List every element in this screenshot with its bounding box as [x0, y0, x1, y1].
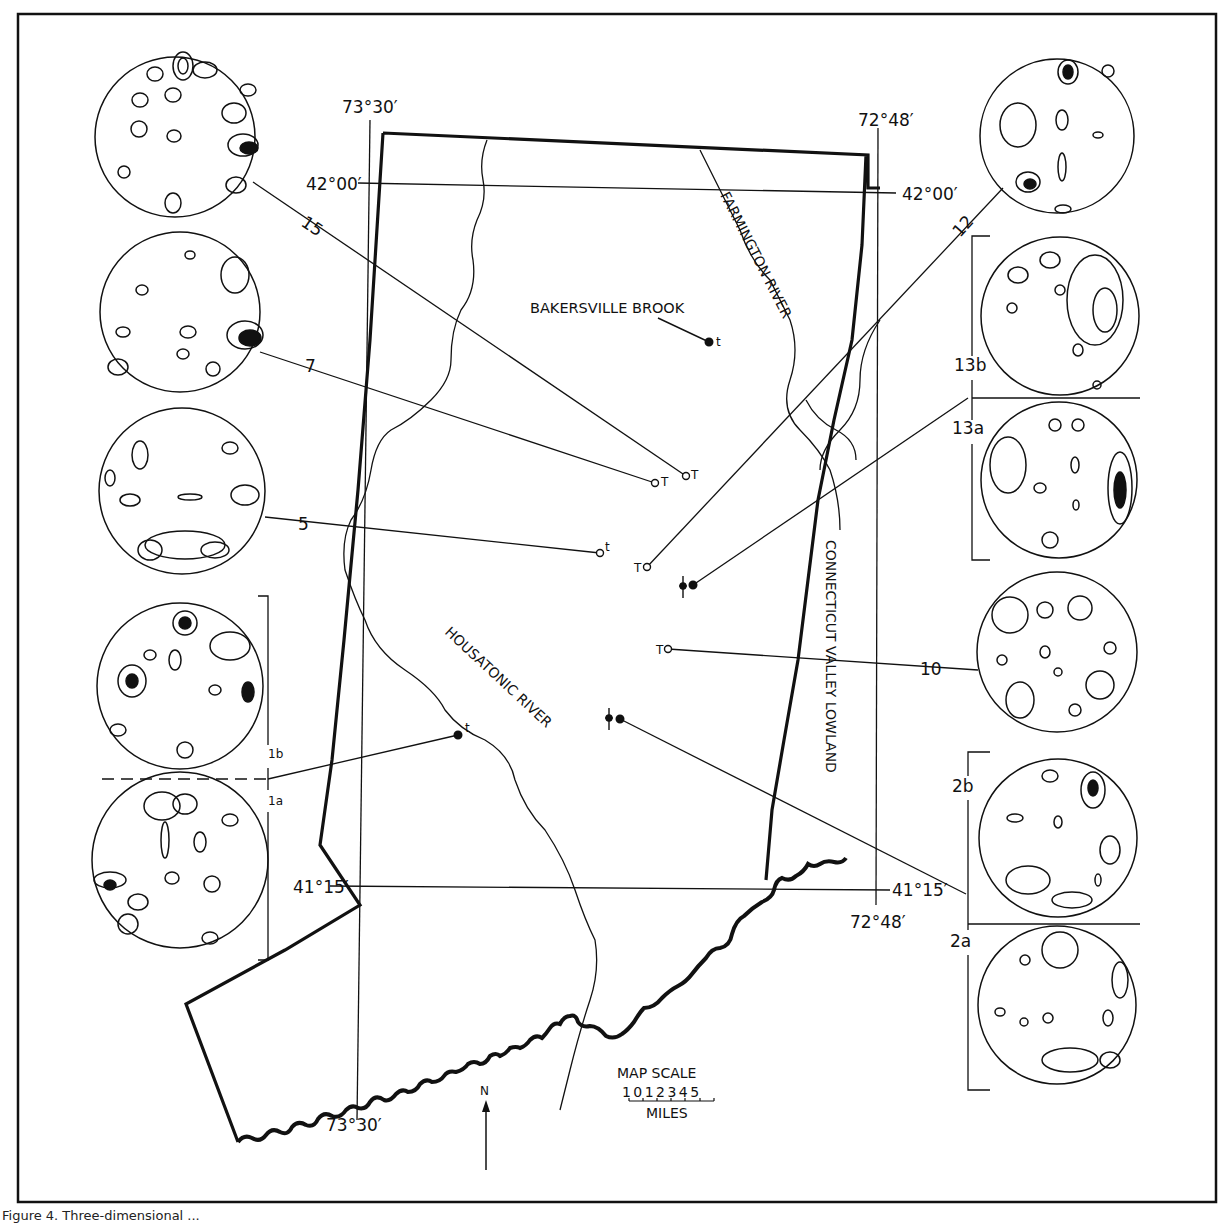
lon-west-top-label: 73°30′ [342, 97, 398, 117]
stereonet-2b [979, 759, 1137, 917]
stereonet-10 [977, 572, 1137, 732]
site-tag-5: t [605, 540, 610, 554]
lon-east-bottom-label: 72°48′ [850, 912, 906, 932]
coastline [238, 858, 846, 1142]
site-tag-10: T [655, 643, 664, 657]
site-tag-bakersville: t [716, 335, 721, 349]
bracket-1 [258, 596, 268, 960]
site-tag-12: T [633, 561, 642, 575]
stereonet-label-1b: 1b [268, 747, 283, 761]
site-15-marker [683, 473, 690, 480]
parallel-41-15 [330, 886, 890, 890]
farmington-river-line [700, 150, 840, 530]
meridian-73-30 [357, 120, 370, 1120]
meridian-72-48 [876, 128, 878, 905]
stereonet-1a [92, 772, 268, 948]
north-arrow-label: N [480, 1084, 489, 1098]
site-7-marker [652, 480, 659, 487]
site-tag-15: T [690, 468, 699, 482]
leader-12 [647, 188, 1003, 567]
stereonet-13a [981, 402, 1137, 558]
stereonet-label-2a: 2a [950, 931, 971, 951]
housatonic-river-label: HOUSATONIC RIVER [442, 623, 555, 730]
stereonet-label-10: 10 [920, 659, 942, 679]
rivers [344, 140, 880, 1110]
stereonet-15 [95, 52, 258, 217]
stereonet-label-2b: 2b [952, 776, 974, 796]
stereonet-label-7: 7 [305, 356, 316, 376]
site-12-marker [644, 564, 651, 571]
farmington-river-label: FARMINGTON RIVER [717, 189, 795, 321]
bakersville-pointer [658, 318, 709, 342]
lat-north-left-label: 42°00′ [306, 174, 362, 194]
stereonet-7 [100, 232, 263, 392]
site-1-marker [454, 731, 462, 739]
stereonet-2a [978, 926, 1136, 1084]
leader-lines [253, 182, 1003, 894]
leader-1 [268, 735, 458, 779]
graticule [330, 120, 896, 1120]
leader-7 [260, 352, 655, 483]
housatonic-river-line [344, 140, 597, 1110]
site-10-marker [665, 646, 672, 653]
stereonet-5 [99, 408, 265, 574]
lat-south-right-label: 41°15′ [892, 880, 948, 900]
site-tag-7: T [660, 475, 669, 489]
stereonet-12 [980, 59, 1134, 213]
leader-5 [265, 517, 600, 553]
figure-caption: Figure 4. Three-dimensional ... [2, 1208, 200, 1223]
site-2-marker [616, 715, 624, 723]
stereonet-label-1a: 1a [268, 794, 283, 808]
site-5-marker [597, 550, 604, 557]
bakersville-brook-label: BAKERSVILLE BROOK [530, 300, 685, 316]
site-13-cross-icon [679, 576, 687, 598]
lon-east-top-label: 72°48′ [858, 110, 914, 130]
parallel-42-00 [358, 183, 896, 193]
site-tag-1: t [465, 721, 470, 735]
scale-title: MAP SCALE [617, 1065, 696, 1081]
stereonet-label-5: 5 [298, 514, 309, 534]
stereonet-label-13b: 13b [954, 355, 986, 375]
scale-ticks: 1 0 1 2 3 4 5 [622, 1084, 698, 1100]
lat-north-right-label: 42°00′ [902, 184, 958, 204]
stereonet-1b [97, 603, 263, 769]
site-13-marker [689, 581, 697, 589]
stereonets [92, 52, 1139, 1084]
figure-frame [18, 14, 1216, 1202]
north-arrow-icon [482, 1100, 490, 1170]
leader-2 [620, 719, 966, 894]
scale-units: MILES [646, 1105, 688, 1121]
stereonet-13b [981, 237, 1139, 395]
geologic-map-figure: 73°30′ 72°48′ 42°00′ 42°00′ 41°15′ 41°15… [0, 0, 1229, 1223]
connecticut-valley-label: CONNECTICUT VALLEY LOWLAND [823, 540, 839, 773]
stereonet-label-13a: 13a [952, 418, 984, 438]
site-2-cross-icon [605, 708, 613, 730]
lat-south-left-label: 41°15′ [293, 877, 349, 897]
